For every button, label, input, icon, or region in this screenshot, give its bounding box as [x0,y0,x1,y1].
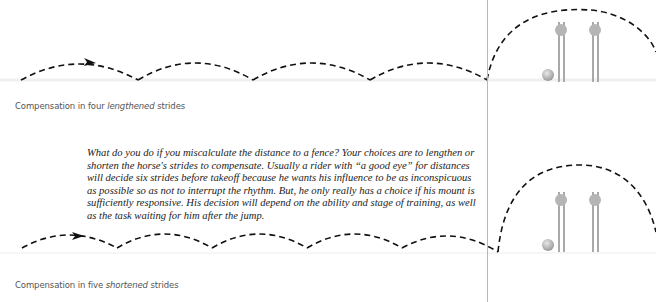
direction-arrow-icon [72,232,84,240]
caption-text: Compensation in four [15,101,107,111]
caption-lengthened-strides: Compensation in four lengthened strides [15,101,185,111]
caption-text: Compensation in five [15,280,106,290]
caption-emphasis: shortened [106,280,148,290]
body-paragraph: What do you do if you miscalculate the d… [87,147,482,223]
fence-icon [542,192,601,252]
stride-path-lengthened [21,10,656,80]
caption-emphasis: lengthened [107,101,154,111]
fence-icon [542,22,601,82]
page-divider [487,0,488,302]
caption-shortened-strides: Compensation in five shortened strides [15,280,178,290]
caption-text: strides [148,280,179,290]
caption-text: strides [155,101,186,111]
